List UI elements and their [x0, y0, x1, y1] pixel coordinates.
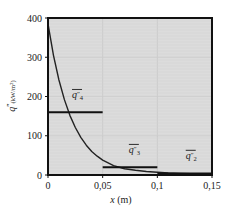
heat-flux-decay-chart: 00,050,10,15 0100200300400 q″4q″3q″2 x (… [0, 0, 231, 220]
svg-text:x (m): x (m) [109, 194, 131, 206]
y-tick-label: 300 [27, 52, 42, 63]
x-tick-label: 0 [46, 180, 51, 191]
y-axis-unit-close: ) [9, 80, 17, 82]
x-axis-unit: (m) [117, 194, 131, 206]
y-tick-label: 0 [37, 170, 42, 181]
x-tick-label: 0,1 [151, 180, 164, 191]
x-tick-label: 0,05 [94, 180, 112, 191]
chart-figure: 00,050,10,15 0100200300400 q″4q″3q″2 x (… [0, 0, 231, 220]
x-axis-title: x (m) [109, 194, 131, 206]
y-axis-unit-open: (kW/m [9, 85, 17, 103]
y-tick-label: 200 [27, 91, 42, 102]
x-tick-label: 0,15 [203, 180, 221, 191]
y-tick-label: 100 [27, 130, 42, 141]
y-tick-label: 400 [27, 13, 42, 24]
